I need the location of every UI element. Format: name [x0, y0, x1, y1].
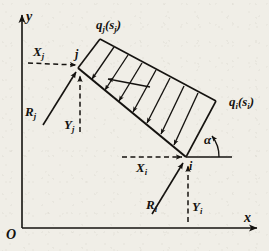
force-Xj-arrow — [28, 63, 76, 65]
diagram-canvas — [0, 0, 269, 251]
label-force-Ri: Ri — [146, 198, 157, 211]
member-line — [78, 68, 186, 157]
load-direction-arrow — [108, 79, 150, 87]
label-force-Xi: Xi — [136, 161, 147, 174]
angle-arc — [212, 136, 219, 157]
load-arrows — [92, 47, 198, 145]
label-load-qj: qj(sj) — [96, 18, 121, 31]
label-force-Yj: Yj — [64, 118, 74, 131]
label-node-i: i — [189, 160, 192, 172]
label-origin: O — [6, 228, 16, 242]
label-angle-alpha: α — [204, 133, 211, 146]
figure-panel: qj(sj) qi(si) Xj Yj Rj Xi Yi Ri α j i y … — [0, 0, 269, 251]
load-ordinate-j — [78, 39, 100, 68]
label-axis-x: x — [244, 211, 251, 225]
label-force-Rj: Rj — [25, 105, 36, 118]
label-force-Yi: Yi — [192, 200, 202, 213]
distributed-load-region — [78, 39, 216, 157]
axis-group — [22, 15, 257, 228]
label-load-qi: qi(si) — [229, 95, 254, 108]
label-node-j: j — [75, 48, 78, 60]
label-force-Xj: Xj — [33, 45, 44, 58]
label-axis-y: y — [26, 10, 32, 24]
